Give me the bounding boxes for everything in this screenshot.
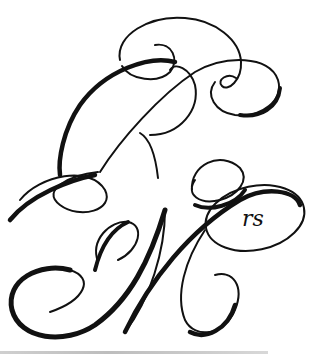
calligraphy-flourish-art [0, 0, 313, 357]
superscript-rs: rs [242, 208, 264, 230]
scan-artifact-line [0, 351, 268, 354]
